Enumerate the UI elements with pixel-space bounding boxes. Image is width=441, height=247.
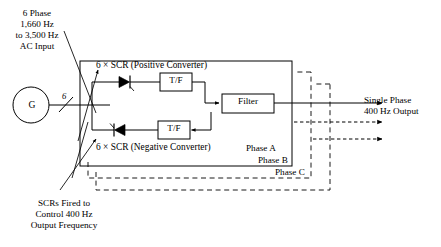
negative-converter-label: 6 × SCR (Negative Converter) xyxy=(96,142,211,153)
scr-note-pointer-lower xyxy=(60,139,96,190)
scr-negative-icon xyxy=(110,124,158,137)
generator-label: G xyxy=(24,99,40,110)
transformer-top-output-path xyxy=(192,82,205,103)
ac-input-label: 6 Phase 1,660 Hz to 3,500 Hz AC Input xyxy=(2,8,72,51)
transformer-bottom-feed-path xyxy=(196,112,211,130)
cycloconverter-block-diagram: 6 Phase 1,660 Hz to 3,500 Hz AC Input G … xyxy=(0,0,441,247)
phase-c-label: Phase C xyxy=(275,167,305,178)
output-label: Single Phase 400 Hz Output xyxy=(364,95,419,117)
transformer-top-label: T/F xyxy=(160,75,192,86)
filter-label: Filter xyxy=(222,96,274,107)
positive-converter-label: 6 × SCR (Positive Converter) xyxy=(96,60,207,71)
phase-a-label: Phase A xyxy=(246,143,276,154)
phase-b-label: Phase B xyxy=(258,155,288,166)
bus-count-label: 6 xyxy=(62,91,66,101)
scr-firing-note: SCRs Fired to Control 400 Hz Output Freq… xyxy=(2,198,126,231)
scr-positive-icon xyxy=(114,76,160,92)
transformer-bottom-label: T/F xyxy=(158,123,190,134)
